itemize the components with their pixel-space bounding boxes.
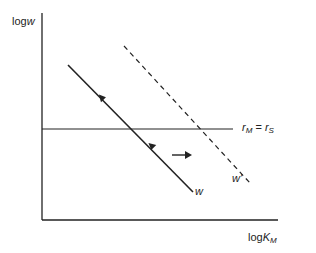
w-line-label: w [195, 185, 203, 197]
x-axis-label: logKM [248, 231, 277, 245]
w-prime-dashed-line [124, 46, 250, 183]
arrow-down-icon [96, 92, 106, 102]
y-axis-label: logw [12, 15, 35, 27]
w-prime-line-label: w' [232, 172, 242, 184]
arrow-right-icon [185, 151, 192, 159]
r-equality-label: rM = rS [242, 121, 274, 135]
